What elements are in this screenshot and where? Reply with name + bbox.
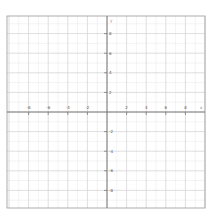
y-tick-label: -6 <box>109 168 113 173</box>
x-tick-label: -6 <box>46 105 50 110</box>
x-tick-label: 4 <box>145 105 148 110</box>
y-tick-label: -2 <box>109 129 113 134</box>
x-tick-label: -8 <box>27 105 31 110</box>
x-tick-label: -2 <box>85 105 89 110</box>
coordinate-plane: -8-6-4-22468 8642-2-4-6-8 x y <box>0 0 216 222</box>
y-tick-label: -4 <box>109 149 113 154</box>
y-tick-label: -8 <box>109 188 113 193</box>
x-tick-label: 8 <box>184 105 187 110</box>
x-tick-label: -4 <box>66 105 70 110</box>
x-tick-label: 6 <box>165 105 168 110</box>
